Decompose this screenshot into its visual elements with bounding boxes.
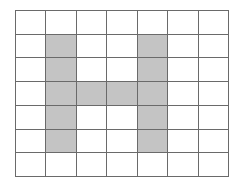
grid-cell-empty bbox=[168, 58, 198, 82]
grid-cell-empty bbox=[138, 153, 168, 177]
grid-cell-empty bbox=[199, 58, 229, 82]
grid-cell-empty bbox=[168, 106, 198, 130]
grid-cell-empty bbox=[46, 11, 76, 35]
grid-cell-empty bbox=[107, 106, 137, 130]
grid-cell-empty bbox=[16, 58, 46, 82]
grid-cell-filled bbox=[138, 35, 168, 59]
grid-cell-empty bbox=[138, 11, 168, 35]
grid-cell-empty bbox=[16, 35, 46, 59]
grid-cell-empty bbox=[168, 82, 198, 106]
grid-cell-empty bbox=[16, 82, 46, 106]
grid-cell-empty bbox=[107, 58, 137, 82]
grid-cell-filled bbox=[138, 82, 168, 106]
grid-cell-empty bbox=[16, 153, 46, 177]
grid-cell-empty bbox=[199, 82, 229, 106]
grid-cell-empty bbox=[168, 35, 198, 59]
grid-cell-empty bbox=[199, 153, 229, 177]
grid-cell-filled bbox=[138, 130, 168, 154]
grid-cell-empty bbox=[168, 130, 198, 154]
grid-cell-empty bbox=[107, 11, 137, 35]
grid-cell-empty bbox=[46, 153, 76, 177]
grid-cell-filled bbox=[46, 106, 76, 130]
grid-cell-empty bbox=[16, 106, 46, 130]
grid-cell-empty bbox=[77, 58, 107, 82]
grid-cell-filled bbox=[107, 82, 137, 106]
grid-cell-empty bbox=[199, 11, 229, 35]
grid-cell-filled bbox=[138, 58, 168, 82]
shaded-grid-diagram bbox=[15, 10, 229, 177]
grid-cell-empty bbox=[199, 35, 229, 59]
grid-cell-empty bbox=[77, 106, 107, 130]
grid-cell-empty bbox=[107, 35, 137, 59]
grid-cell-empty bbox=[199, 130, 229, 154]
grid-cell-empty bbox=[199, 106, 229, 130]
grid-cell-filled bbox=[46, 82, 76, 106]
grid-cell-empty bbox=[107, 153, 137, 177]
grid-cell-empty bbox=[168, 11, 198, 35]
grid-cell-empty bbox=[77, 11, 107, 35]
grid-cell-empty bbox=[77, 130, 107, 154]
grid-cell-filled bbox=[138, 106, 168, 130]
grid-cell-filled bbox=[46, 58, 76, 82]
grid-cell-filled bbox=[46, 35, 76, 59]
grid-cell-empty bbox=[16, 11, 46, 35]
grid-cell-filled bbox=[46, 130, 76, 154]
grid-cell-empty bbox=[77, 35, 107, 59]
grid-cell-empty bbox=[77, 153, 107, 177]
grid-cell-empty bbox=[168, 153, 198, 177]
grid-cell-empty bbox=[16, 130, 46, 154]
grid-cell-filled bbox=[77, 82, 107, 106]
grid-cell-empty bbox=[107, 130, 137, 154]
